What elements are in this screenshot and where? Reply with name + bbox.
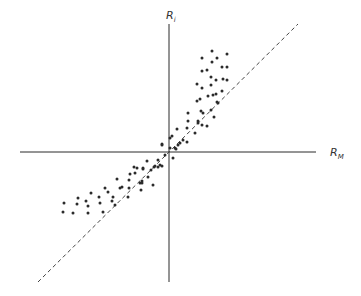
data-point bbox=[134, 172, 137, 175]
data-point bbox=[114, 204, 117, 207]
data-point bbox=[150, 169, 153, 172]
data-point bbox=[169, 137, 172, 140]
data-point bbox=[62, 211, 65, 214]
data-point bbox=[226, 79, 229, 82]
data-point bbox=[128, 179, 131, 182]
data-point bbox=[196, 83, 199, 86]
data-point bbox=[121, 186, 124, 189]
data-point bbox=[136, 167, 139, 170]
data-point bbox=[133, 166, 136, 169]
x-axis-label: RM bbox=[330, 146, 344, 161]
data-point bbox=[187, 112, 190, 115]
data-point bbox=[154, 165, 157, 168]
data-point bbox=[159, 164, 162, 167]
data-point bbox=[211, 50, 214, 53]
data-point bbox=[210, 76, 213, 79]
data-point bbox=[226, 66, 229, 69]
data-point bbox=[215, 93, 218, 96]
data-point bbox=[215, 79, 218, 82]
data-point bbox=[77, 197, 80, 200]
data-point bbox=[186, 141, 189, 144]
data-point bbox=[199, 98, 202, 101]
data-point bbox=[147, 176, 150, 179]
data-point bbox=[129, 173, 132, 176]
data-point bbox=[175, 148, 178, 151]
regression-line bbox=[38, 24, 298, 282]
data-point bbox=[63, 202, 66, 205]
x-axis-label-main: R bbox=[330, 146, 338, 159]
data-point bbox=[222, 78, 225, 81]
scatter-chart: RM Ri bbox=[0, 0, 361, 296]
data-point bbox=[90, 192, 93, 195]
data-point bbox=[187, 120, 190, 123]
data-point bbox=[72, 212, 75, 215]
data-point bbox=[186, 127, 189, 130]
data-point bbox=[169, 147, 172, 150]
data-point bbox=[140, 189, 143, 192]
data-point bbox=[201, 57, 204, 60]
data-point bbox=[206, 125, 209, 128]
data-point bbox=[197, 122, 200, 125]
data-point bbox=[152, 184, 155, 187]
data-point bbox=[201, 87, 204, 90]
data-point bbox=[157, 159, 160, 162]
data-point bbox=[128, 187, 131, 190]
data-point bbox=[164, 154, 167, 157]
data-point bbox=[207, 95, 210, 98]
data-point bbox=[194, 132, 197, 135]
data-point bbox=[201, 124, 204, 127]
data-point bbox=[211, 61, 214, 64]
data-point bbox=[87, 205, 90, 208]
data-point bbox=[216, 57, 219, 60]
data-point bbox=[112, 196, 115, 199]
data-point bbox=[202, 112, 205, 115]
y-axis-label-main: R bbox=[166, 9, 174, 22]
data-point bbox=[226, 53, 229, 56]
x-axis-label-subscript: M bbox=[338, 153, 344, 161]
data-point bbox=[141, 182, 144, 185]
data-point bbox=[210, 109, 213, 112]
data-point bbox=[107, 191, 110, 194]
y-axis-label-subscript: i bbox=[174, 16, 176, 24]
data-point bbox=[98, 196, 101, 199]
data-point bbox=[182, 139, 185, 142]
data-point bbox=[104, 187, 107, 190]
data-points bbox=[62, 50, 229, 215]
data-point bbox=[196, 100, 199, 103]
data-point bbox=[212, 94, 215, 97]
data-point bbox=[111, 200, 114, 203]
data-point bbox=[206, 69, 209, 72]
data-point bbox=[146, 160, 149, 163]
data-point bbox=[179, 142, 182, 145]
data-point bbox=[217, 102, 220, 105]
data-point bbox=[102, 211, 105, 214]
data-point bbox=[161, 144, 164, 147]
data-point bbox=[210, 84, 213, 87]
data-point bbox=[176, 128, 179, 131]
data-point bbox=[127, 196, 130, 199]
data-point bbox=[172, 157, 175, 160]
data-point bbox=[142, 167, 145, 170]
y-axis-label: Ri bbox=[166, 9, 176, 24]
data-point bbox=[87, 212, 90, 215]
data-point bbox=[221, 90, 224, 93]
data-point bbox=[213, 116, 216, 119]
data-point bbox=[76, 203, 79, 206]
data-point bbox=[99, 202, 102, 205]
data-point bbox=[221, 66, 224, 69]
data-point bbox=[85, 200, 88, 203]
data-point bbox=[201, 70, 204, 73]
data-point bbox=[116, 178, 119, 181]
